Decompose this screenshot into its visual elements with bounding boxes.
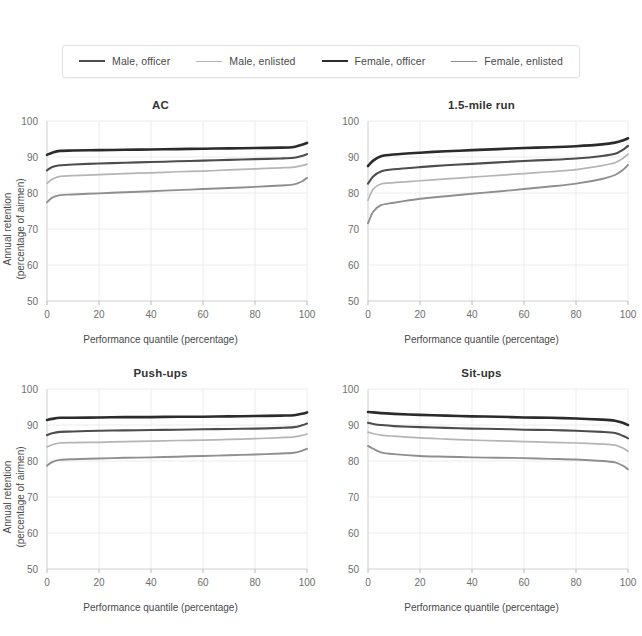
legend-swatch-female-officer [322, 60, 348, 62]
svg-text:100: 100 [21, 116, 38, 127]
svg-text:50: 50 [348, 296, 360, 307]
svg-text:20: 20 [93, 309, 105, 320]
series-line [47, 449, 307, 466]
svg-text:50: 50 [348, 564, 360, 575]
svg-text:80: 80 [570, 577, 582, 588]
svg-text:60: 60 [27, 260, 39, 271]
svg-text:80: 80 [27, 456, 39, 467]
svg-text:60: 60 [518, 309, 530, 320]
svg-text:20: 20 [414, 309, 426, 320]
svg-text:40: 40 [145, 577, 157, 588]
svg-text:60: 60 [348, 260, 360, 271]
svg-text:90: 90 [348, 152, 360, 163]
svg-text:100: 100 [21, 384, 38, 395]
series-line [368, 432, 628, 451]
svg-text:80: 80 [348, 188, 360, 199]
legend-label-female-enlisted: Female, enlisted [484, 55, 563, 67]
legend-swatch-female-enlisted [451, 61, 477, 62]
x-axis-label-pushups: Performance quantile (percentage) [0, 602, 321, 613]
legend-item-female-enlisted: Female, enlisted [451, 55, 563, 67]
svg-text:70: 70 [348, 224, 360, 235]
series-line [368, 446, 628, 469]
svg-text:100: 100 [299, 309, 316, 320]
svg-text:70: 70 [27, 224, 39, 235]
svg-text:40: 40 [145, 309, 157, 320]
legend-label-female-officer: Female, officer [355, 55, 426, 67]
series-line [47, 143, 307, 155]
plot-run: 5060708090100020406080100 [321, 95, 642, 363]
svg-text:90: 90 [27, 152, 39, 163]
legend-container: Male, officer Male, enlisted Female, off… [0, 45, 642, 78]
svg-text:70: 70 [348, 492, 360, 503]
legend-item-female-officer: Female, officer [322, 55, 426, 67]
chart-panel-grid: AC Annual retention (percentage of airme… [0, 95, 642, 635]
svg-text:0: 0 [365, 577, 371, 588]
panel-ac: AC Annual retention (percentage of airme… [0, 95, 321, 363]
svg-text:60: 60 [197, 577, 209, 588]
svg-text:80: 80 [249, 309, 261, 320]
svg-text:80: 80 [348, 456, 360, 467]
svg-text:80: 80 [570, 309, 582, 320]
svg-text:100: 100 [342, 384, 359, 395]
x-axis-label-ac: Performance quantile (percentage) [0, 334, 321, 345]
series-line [368, 146, 628, 184]
svg-text:100: 100 [620, 577, 637, 588]
series-line [368, 165, 628, 223]
svg-text:50: 50 [27, 564, 39, 575]
x-axis-label-situps: Performance quantile (percentage) [321, 602, 642, 613]
plot-ac: 5060708090100020406080100 [0, 95, 321, 363]
svg-text:100: 100 [342, 116, 359, 127]
series-line [47, 178, 307, 202]
panel-pushups: Push-ups Annual retention (percentage of… [0, 363, 321, 631]
legend-swatch-male-officer [79, 60, 105, 62]
svg-text:70: 70 [27, 492, 39, 503]
svg-text:20: 20 [414, 577, 426, 588]
x-axis-label-run: Performance quantile (percentage) [321, 334, 642, 345]
svg-text:0: 0 [44, 309, 50, 320]
svg-text:60: 60 [197, 309, 209, 320]
legend-swatch-male-enlisted [196, 61, 222, 62]
plot-situps: 5060708090100020406080100 [321, 363, 642, 631]
panel-run: 1.5-mile run 5060708090100020406080100 P… [321, 95, 642, 363]
legend-item-male-officer: Male, officer [79, 55, 170, 67]
svg-text:50: 50 [27, 296, 39, 307]
legend-label-male-enlisted: Male, enlisted [229, 55, 295, 67]
svg-text:90: 90 [27, 420, 39, 431]
panel-situps: Sit-ups 5060708090100020406080100 Perfor… [321, 363, 642, 631]
legend: Male, officer Male, enlisted Female, off… [62, 45, 580, 78]
svg-text:100: 100 [620, 309, 637, 320]
svg-text:40: 40 [466, 309, 478, 320]
svg-text:60: 60 [27, 528, 39, 539]
svg-text:100: 100 [299, 577, 316, 588]
svg-text:20: 20 [93, 577, 105, 588]
svg-text:60: 60 [518, 577, 530, 588]
svg-text:40: 40 [466, 577, 478, 588]
series-line [368, 412, 628, 425]
plot-pushups: 5060708090100020406080100 [0, 363, 321, 631]
legend-item-male-enlisted: Male, enlisted [196, 55, 295, 67]
svg-text:0: 0 [365, 309, 371, 320]
series-line [47, 164, 307, 183]
series-line [47, 412, 307, 420]
svg-text:80: 80 [27, 188, 39, 199]
svg-text:90: 90 [348, 420, 360, 431]
svg-text:60: 60 [348, 528, 360, 539]
legend-label-male-officer: Male, officer [112, 55, 170, 67]
svg-text:80: 80 [249, 577, 261, 588]
svg-text:0: 0 [44, 577, 50, 588]
series-line [47, 434, 307, 447]
